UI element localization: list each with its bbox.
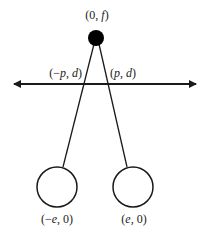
diagram-canvas: (0, f) (−p, d) (p, d) (−e, 0) (e, 0) [0, 0, 206, 233]
right-circle [113, 167, 153, 207]
left-string-line [63, 44, 94, 167]
top-point-dot [88, 30, 104, 46]
left-circle [37, 167, 77, 207]
right-circle-label: (e, 0) [121, 212, 146, 226]
top-point-label: (0, f) [85, 8, 108, 22]
left-cross-label: (−p, d) [49, 66, 82, 80]
right-cross-label: (p, d) [110, 66, 136, 80]
right-string-line [99, 44, 127, 167]
left-circle-label: (−e, 0) [41, 212, 73, 226]
